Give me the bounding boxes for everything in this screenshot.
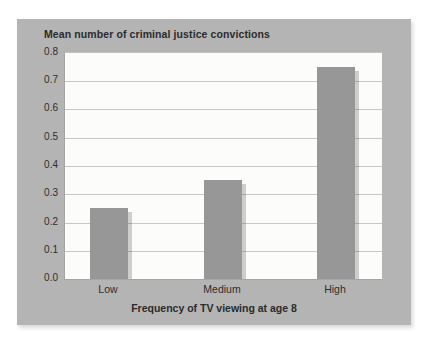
chart-panel: Mean number of criminal justice convicti… [17,19,411,325]
bar-high [317,67,355,279]
y-tick-label: 0.3 [44,186,58,200]
x-tick-label-medium: Medium [203,283,240,295]
figure: Mean number of criminal justice convicti… [0,0,426,347]
plot-area [64,52,382,280]
y-tick-label: 0.5 [44,130,58,144]
y-axis-ticks: 0.00.10.20.30.40.50.60.70.8 [17,19,61,325]
x-axis-title: Frequency of TV viewing at age 8 [17,302,411,314]
y-tick-label: 0.8 [44,45,58,59]
bar-medium [204,180,242,279]
x-tick-label-low: Low [98,283,117,295]
chart-title: Mean number of criminal justice convicti… [44,28,270,40]
y-tick-label: 0.2 [44,215,58,229]
y-tick-label: 0.7 [44,73,58,87]
bar-low [90,208,128,279]
x-axis-ticks: LowMediumHigh [64,283,381,297]
y-tick-label: 0.4 [44,158,58,172]
y-tick-label: 0.0 [44,271,58,285]
y-tick-label: 0.1 [44,243,58,257]
x-tick-label-high: High [324,283,346,295]
y-tick-label: 0.6 [44,101,58,115]
